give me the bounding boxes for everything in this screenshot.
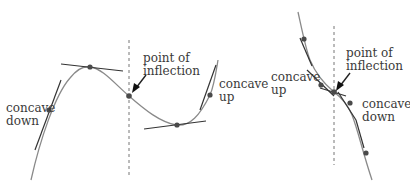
left-point-concave-up bbox=[207, 92, 212, 97]
right-point-inflection bbox=[331, 89, 337, 95]
right-label-concave-down-1: concave bbox=[362, 97, 410, 111]
right-point-upper bbox=[301, 36, 306, 41]
right-curve bbox=[298, 12, 372, 180]
right-tangent-lower bbox=[356, 120, 364, 148]
right-point-concave-down bbox=[347, 100, 352, 105]
left-curve bbox=[31, 60, 218, 180]
left-label-concave-up-2: up bbox=[219, 90, 235, 104]
concavity-diagram: concave down point of inflection concave… bbox=[0, 0, 410, 195]
right-label-concave-up-1: concave bbox=[271, 70, 320, 84]
left-point-minimum bbox=[174, 122, 179, 127]
left-label-inflection-2: inflection bbox=[143, 64, 200, 78]
left-tangent-concave-up bbox=[200, 65, 216, 110]
left-point-inflection bbox=[126, 93, 132, 99]
right-panel: concave up point of inflection concave d… bbox=[271, 12, 410, 180]
left-panel: concave down point of inflection concave… bbox=[6, 40, 268, 180]
left-point-maximum bbox=[87, 64, 92, 69]
right-label-concave-up-2: up bbox=[271, 83, 287, 97]
right-label-concave-down-2: down bbox=[362, 110, 395, 124]
left-label-concave-down-1: concave bbox=[6, 101, 55, 115]
right-point-lower bbox=[363, 150, 368, 155]
right-tangent-upper-1 bbox=[300, 38, 312, 66]
left-label-concave-down-2: down bbox=[6, 114, 39, 128]
right-label-inflection-1: point of bbox=[346, 46, 394, 60]
right-tangent-concave-down bbox=[338, 92, 356, 120]
left-label-concave-up-1: concave bbox=[219, 77, 268, 91]
right-label-inflection-2: inflection bbox=[346, 59, 403, 73]
left-label-inflection-1: point of bbox=[143, 51, 191, 65]
